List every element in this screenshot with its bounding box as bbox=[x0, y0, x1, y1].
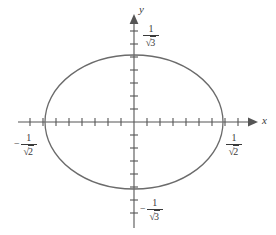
fraction-one-over-root-two: 1 √2 bbox=[21, 133, 37, 157]
ellipse-plot-figure: y x 1 √3 − 1 √3 1 √2 − 1 √2 bbox=[0, 0, 276, 235]
fraction-denominator: √2 bbox=[21, 145, 36, 158]
fraction-numerator: 1 bbox=[24, 133, 33, 144]
y-negative-tick-label: − 1 √3 bbox=[140, 198, 163, 222]
radicand: 3 bbox=[150, 36, 156, 48]
fraction-one-over-root-two: 1 √2 bbox=[226, 133, 242, 157]
y-axis-label: y bbox=[139, 4, 144, 15]
minus-sign: − bbox=[140, 204, 147, 214]
fraction-denominator: √3 bbox=[147, 210, 162, 223]
radicand: 2 bbox=[28, 145, 34, 157]
x-axis-arrowhead bbox=[248, 118, 258, 127]
fraction-denominator: √3 bbox=[144, 36, 159, 49]
fraction-one-over-root-three: 1 √3 bbox=[143, 24, 159, 48]
radicand: 2 bbox=[233, 145, 239, 157]
fraction-numerator: 1 bbox=[147, 24, 156, 35]
x-negative-tick-label: − 1 √2 bbox=[14, 133, 37, 157]
fraction-numerator: 1 bbox=[150, 198, 159, 209]
y-positive-tick-label: 1 √3 bbox=[143, 24, 159, 48]
y-axis-arrowhead bbox=[130, 14, 139, 24]
x-positive-tick-label: 1 √2 bbox=[226, 133, 242, 157]
radicand: 3 bbox=[154, 210, 160, 222]
plot-canvas bbox=[0, 0, 276, 235]
x-axis-label: x bbox=[262, 115, 267, 126]
fraction-one-over-root-three: 1 √3 bbox=[147, 198, 163, 222]
fraction-numerator: 1 bbox=[230, 133, 239, 144]
fraction-denominator: √2 bbox=[227, 145, 242, 158]
minus-sign: − bbox=[14, 139, 21, 149]
